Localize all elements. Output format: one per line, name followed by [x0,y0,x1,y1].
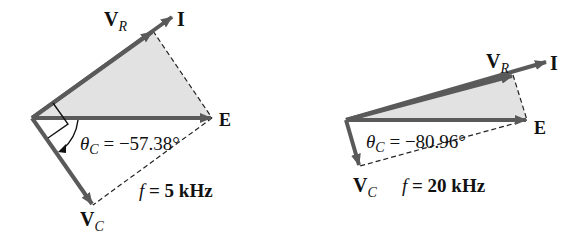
phasor-diagram-20khz: VR I E VC θC = −80.96° f = 20 kHz [346,50,558,200]
frequency-label: f = 20 kHz [402,175,486,196]
phasor-diagrams: VR I E VC θC = −57.38° f = 5 kHz VR I E … [0,0,586,243]
vr-label: VR [486,50,509,76]
theta-angle-arc [62,120,78,150]
i-label: I [550,52,558,74]
vc-phasor-arrow [32,118,92,204]
impedance-triangle-fill [32,31,212,118]
vr-label: VR [104,8,127,34]
theta-c-label: θC = −57.38° [80,133,180,157]
e-label: E [219,110,231,130]
phasor-diagram-5khz: VR I E VC θC = −57.38° f = 5 kHz [32,8,231,234]
theta-arc-arrowhead-icon [58,144,66,153]
vc-label: VC [80,208,104,234]
vc-label: VC [353,174,377,200]
theta-c-label: θC = −80.96° [366,131,466,155]
e-label: E [534,118,546,138]
vc-phasor-arrow [346,120,359,165]
i-label: I [177,8,185,30]
frequency-label: f = 5 kHz [139,180,213,201]
